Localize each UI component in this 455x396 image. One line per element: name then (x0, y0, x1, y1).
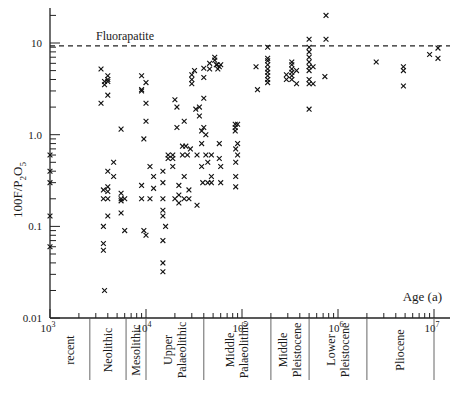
x-marker (182, 174, 187, 179)
y-axis-label: 100F/P2O5 (10, 162, 28, 218)
x-marker (218, 180, 223, 185)
x-marker (170, 156, 175, 161)
x-marker (427, 52, 432, 57)
svg-text:Middle: Middle (276, 333, 290, 368)
y-tick-label: 0.01 (23, 312, 42, 324)
x-marker (182, 196, 187, 201)
x-marker (201, 75, 206, 80)
x-marker (322, 74, 327, 79)
x-marker (105, 169, 110, 174)
x-marker (122, 228, 127, 233)
period-bands: recentNeolithicMesolithicUpperPalaeolith… (63, 318, 434, 380)
x-marker (374, 60, 379, 65)
x-marker (161, 214, 166, 219)
x-marker (189, 72, 194, 77)
scatter-chart: 101.00.10.01103104105106107 recentNeolit… (0, 0, 455, 396)
x-marker (144, 233, 149, 238)
x-marker (101, 248, 106, 253)
svg-text:Pleistocene: Pleistocene (290, 323, 304, 378)
svg-text:Upper: Upper (161, 335, 175, 365)
x-marker (235, 141, 240, 146)
x-marker (187, 188, 192, 193)
x-marker (307, 45, 312, 50)
svg-text:Middle: Middle (223, 333, 237, 368)
svg-text:Palaeolithic: Palaeolithic (175, 322, 189, 379)
x-marker (255, 87, 260, 92)
x-marker (101, 241, 106, 246)
period-label: Mesolithic (129, 324, 143, 375)
x-marker (101, 188, 106, 193)
x-marker (294, 81, 299, 86)
x-marker (189, 77, 194, 82)
x-marker (187, 196, 192, 201)
x-marker (209, 180, 214, 185)
x-marker (105, 214, 110, 219)
x-marker (161, 260, 166, 265)
period-label: recent (63, 335, 77, 365)
x-tick-exponent: 3 (52, 320, 56, 329)
x-marker (163, 224, 168, 229)
x-marker (182, 119, 187, 124)
y-tick-label: 0.1 (28, 220, 42, 232)
axes: 101.00.10.01103104105106107 (23, 8, 450, 334)
x-marker (218, 164, 223, 169)
period-label: MiddlePalaeolithic (223, 322, 251, 379)
x-marker (161, 208, 166, 213)
x-marker (284, 77, 289, 82)
x-marker (189, 81, 194, 86)
x-marker (200, 180, 205, 185)
x-marker (105, 189, 110, 194)
x-marker (233, 129, 238, 134)
svg-text:Pliocene: Pliocene (393, 329, 407, 370)
x-marker (101, 196, 106, 201)
x-marker (161, 196, 166, 201)
x-marker (233, 147, 238, 152)
svg-text:Lower: Lower (324, 334, 338, 365)
x-marker (289, 77, 294, 82)
x-marker (218, 62, 223, 67)
x-marker (436, 56, 441, 61)
x-marker (151, 174, 156, 179)
x-marker (307, 55, 312, 60)
x-marker (139, 196, 144, 201)
x-marker (311, 64, 316, 69)
x-marker (105, 196, 110, 201)
x-marker (161, 238, 166, 243)
x-marker (172, 97, 177, 102)
svg-text:Palaeolithic: Palaeolithic (237, 322, 251, 379)
x-marker (161, 180, 166, 185)
x-marker (188, 147, 193, 152)
data-points (48, 13, 441, 293)
x-marker (148, 164, 153, 169)
period-label: UpperPalaeolithic (161, 322, 189, 379)
reference-label: Fluorapatite (96, 29, 154, 43)
x-marker (233, 184, 238, 189)
period-label: MiddlePleistocene (276, 323, 304, 378)
x-marker (201, 66, 206, 71)
x-marker (141, 228, 146, 233)
svg-text:Mesolithic: Mesolithic (129, 324, 143, 375)
x-axis-label: Age (a) (403, 289, 442, 304)
x-marker (99, 67, 104, 72)
x-marker (195, 203, 200, 208)
x-marker (180, 153, 185, 158)
x-marker (105, 93, 110, 98)
x-marker (119, 191, 124, 196)
x-marker (294, 68, 299, 73)
x-marker (144, 119, 149, 124)
x-marker (203, 153, 208, 158)
x-marker (176, 183, 181, 188)
x-marker (119, 127, 124, 132)
x-marker (139, 73, 144, 78)
x-marker (111, 174, 116, 179)
x-marker (207, 61, 212, 66)
svg-text:Pleistocene: Pleistocene (338, 323, 352, 378)
x-marker (205, 160, 210, 165)
svg-text:recent: recent (63, 335, 77, 365)
x-marker (170, 164, 175, 169)
x-marker (176, 201, 181, 206)
x-marker (235, 153, 240, 158)
x-tick-label: 103 (41, 320, 56, 334)
x-marker (199, 164, 204, 169)
x-marker (203, 132, 208, 137)
